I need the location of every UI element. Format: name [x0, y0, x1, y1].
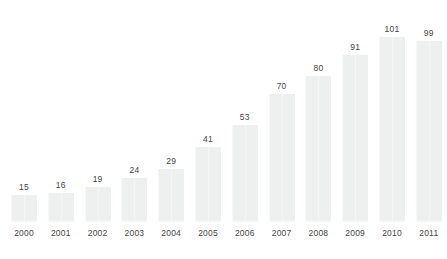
category-label: 2009 [345, 228, 365, 239]
bar-value-label: 99 [424, 28, 434, 38]
plot-area: 1520001620011920022420032920044120055320… [0, 0, 447, 259]
category-label: 2002 [88, 228, 108, 239]
category-label: 2005 [198, 228, 218, 239]
bar-value-label: 80 [313, 63, 323, 73]
bar-rect [85, 187, 111, 222]
category-label: 2008 [309, 228, 329, 239]
bar-value-label: 41 [203, 134, 213, 144]
bar-value-label: 70 [277, 81, 287, 91]
bar-rect [48, 193, 74, 222]
bar-column: 702007 [264, 81, 300, 239]
bar-column: 162001 [43, 180, 79, 239]
bar-value-label: 24 [129, 165, 139, 175]
bar-value-label: 15 [19, 182, 29, 192]
category-label: 2010 [382, 228, 402, 239]
bar-rect [269, 94, 295, 222]
category-label: 2007 [272, 228, 292, 239]
bar-rect [121, 178, 147, 222]
bar-column: 152000 [6, 182, 42, 239]
bar-column: 1012010 [374, 24, 410, 239]
bar-rect [305, 76, 331, 222]
bar-column: 242003 [116, 165, 152, 239]
bar-rect [342, 55, 368, 222]
category-label: 2003 [125, 228, 145, 239]
bar-column: 532006 [227, 112, 263, 239]
category-label: 2004 [161, 228, 181, 239]
bar-rect [379, 37, 405, 222]
bar-value-label: 29 [166, 156, 176, 166]
bar-rect [416, 41, 442, 222]
bar-column: 412005 [190, 134, 226, 239]
bar-column: 912009 [337, 42, 373, 239]
category-label: 2001 [51, 228, 71, 239]
bar-column: 292004 [153, 156, 189, 239]
category-label: 2006 [235, 228, 255, 239]
bar-value-label: 91 [350, 42, 360, 52]
bar-rect [232, 125, 258, 222]
bar-column: 802008 [300, 63, 336, 239]
category-label: 2011 [419, 228, 438, 239]
bar-rect [195, 147, 221, 222]
bar-rect [11, 195, 37, 222]
bar-value-label: 19 [93, 174, 103, 184]
bar-chart: 1520001620011920022420032920044120055320… [0, 0, 447, 259]
bar-column: 192002 [80, 174, 116, 239]
bar-column: 992011 [411, 28, 447, 239]
category-label: 2000 [14, 228, 34, 239]
bar-value-label: 101 [385, 24, 400, 34]
bar-value-label: 53 [240, 112, 250, 122]
bar-rect [158, 169, 184, 222]
bar-value-label: 16 [56, 180, 66, 190]
